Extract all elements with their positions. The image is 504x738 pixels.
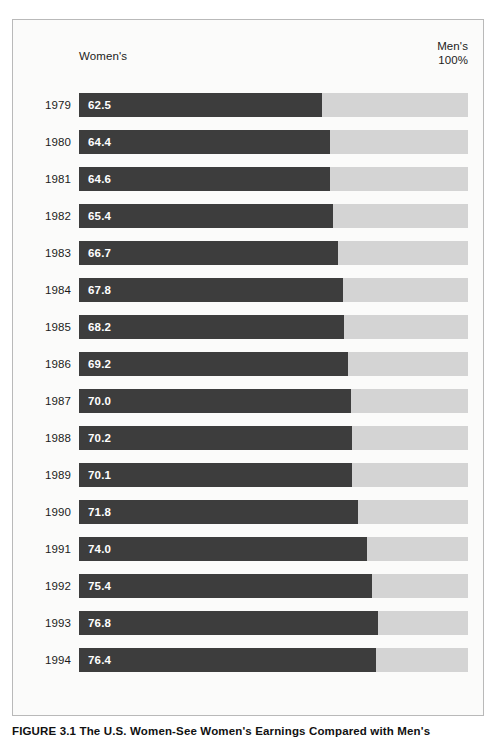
bar-value-label: 65.4 (88, 204, 111, 228)
bar-value-label: 62.5 (88, 93, 111, 117)
bar-value-label: 76.8 (88, 611, 111, 635)
bar-row-year-label: 1987 (13, 394, 71, 408)
bar-value-label: 74.0 (88, 537, 111, 561)
bar-track-mens-reference: 62.5 (79, 93, 468, 117)
chart-panel: Women's Men's 100% 197962.5198064.419816… (12, 19, 484, 716)
bar-track-mens-reference: 67.8 (79, 278, 468, 302)
bar-fill-womens-share: 74.0 (79, 537, 367, 561)
bar-row: 198164.6 (13, 167, 483, 204)
bar-fill-womens-share: 64.6 (79, 167, 330, 191)
bar-track-mens-reference: 74.0 (79, 537, 468, 561)
bar-row-year-label: 1979 (13, 98, 71, 112)
bar-row: 198265.4 (13, 204, 483, 241)
bar-value-label: 70.0 (88, 389, 111, 413)
bar-row-year-label: 1983 (13, 246, 71, 260)
bar-row: 198970.1 (13, 463, 483, 500)
bar-rows: 197962.5198064.4198164.6198265.4198366.7… (13, 93, 483, 685)
bar-row: 198568.2 (13, 315, 483, 352)
bar-row-year-label: 1992 (13, 579, 71, 593)
bar-track-mens-reference: 76.4 (79, 648, 468, 672)
bar-fill-womens-share: 76.8 (79, 611, 378, 635)
bar-track-mens-reference: 68.2 (79, 315, 468, 339)
bar-value-label: 67.8 (88, 278, 111, 302)
bar-row: 198366.7 (13, 241, 483, 278)
bar-row: 199476.4 (13, 648, 483, 685)
bar-fill-womens-share: 70.1 (79, 463, 352, 487)
column-header-mens-percent: 100% (437, 54, 468, 68)
bar-row-year-label: 1988 (13, 431, 71, 445)
bar-value-label: 75.4 (88, 574, 111, 598)
column-header-womens: Women's (79, 50, 127, 64)
bar-track-mens-reference: 71.8 (79, 500, 468, 524)
bar-track-mens-reference: 64.4 (79, 130, 468, 154)
bar-fill-womens-share: 70.0 (79, 389, 351, 413)
bar-track-mens-reference: 66.7 (79, 241, 468, 265)
bar-value-label: 64.6 (88, 167, 111, 191)
bar-fill-womens-share: 71.8 (79, 500, 358, 524)
bar-fill-womens-share: 64.4 (79, 130, 330, 154)
bar-row: 198064.4 (13, 130, 483, 167)
bar-track-mens-reference: 70.2 (79, 426, 468, 450)
bar-fill-womens-share: 69.2 (79, 352, 348, 376)
bar-track-mens-reference: 64.6 (79, 167, 468, 191)
bar-track-mens-reference: 65.4 (79, 204, 468, 228)
bar-row-year-label: 1989 (13, 468, 71, 482)
bar-row: 198770.0 (13, 389, 483, 426)
bar-row-year-label: 1980 (13, 135, 71, 149)
bar-row: 198669.2 (13, 352, 483, 389)
bar-fill-womens-share: 75.4 (79, 574, 372, 598)
bar-row-year-label: 1986 (13, 357, 71, 371)
bar-track-mens-reference: 70.1 (79, 463, 468, 487)
bar-fill-womens-share: 65.4 (79, 204, 333, 228)
bar-fill-womens-share: 67.8 (79, 278, 343, 302)
bar-row-year-label: 1994 (13, 653, 71, 667)
bar-row-year-label: 1982 (13, 209, 71, 223)
bar-fill-womens-share: 62.5 (79, 93, 322, 117)
bar-track-mens-reference: 76.8 (79, 611, 468, 635)
bar-row: 199275.4 (13, 574, 483, 611)
bar-fill-womens-share: 66.7 (79, 241, 338, 265)
bar-row: 198467.8 (13, 278, 483, 315)
bar-row: 199174.0 (13, 537, 483, 574)
bar-value-label: 69.2 (88, 352, 111, 376)
figure-caption-number: FIGURE 3.1 (12, 725, 76, 737)
bar-row-year-label: 1985 (13, 320, 71, 334)
bar-value-label: 76.4 (88, 648, 111, 672)
column-header-mens: Men's 100% (437, 40, 468, 67)
bar-track-mens-reference: 69.2 (79, 352, 468, 376)
bar-fill-womens-share: 76.4 (79, 648, 376, 672)
bar-row: 197962.5 (13, 93, 483, 130)
bar-value-label: 66.7 (88, 241, 111, 265)
bar-value-label: 68.2 (88, 315, 111, 339)
bar-fill-womens-share: 68.2 (79, 315, 344, 339)
bar-row-year-label: 1990 (13, 505, 71, 519)
bar-value-label: 70.1 (88, 463, 111, 487)
bar-row: 199071.8 (13, 500, 483, 537)
bar-track-mens-reference: 75.4 (79, 574, 468, 598)
bar-row-year-label: 1981 (13, 172, 71, 186)
bar-value-label: 70.2 (88, 426, 111, 450)
bar-fill-womens-share: 70.2 (79, 426, 352, 450)
bar-value-label: 64.4 (88, 130, 111, 154)
bar-value-label: 71.8 (88, 500, 111, 524)
column-header-mens-label: Men's (437, 40, 468, 54)
bar-row-year-label: 1984 (13, 283, 71, 297)
bar-track-mens-reference: 70.0 (79, 389, 468, 413)
bar-row-year-label: 1993 (13, 616, 71, 630)
bar-row-year-label: 1991 (13, 542, 71, 556)
figure-caption: FIGURE 3.1 The U.S. Women-See Women's Ea… (12, 724, 492, 738)
bar-row: 198870.2 (13, 426, 483, 463)
figure-caption-text: The U.S. Women-See Women's Earnings Comp… (80, 725, 431, 737)
bar-row: 199376.8 (13, 611, 483, 648)
